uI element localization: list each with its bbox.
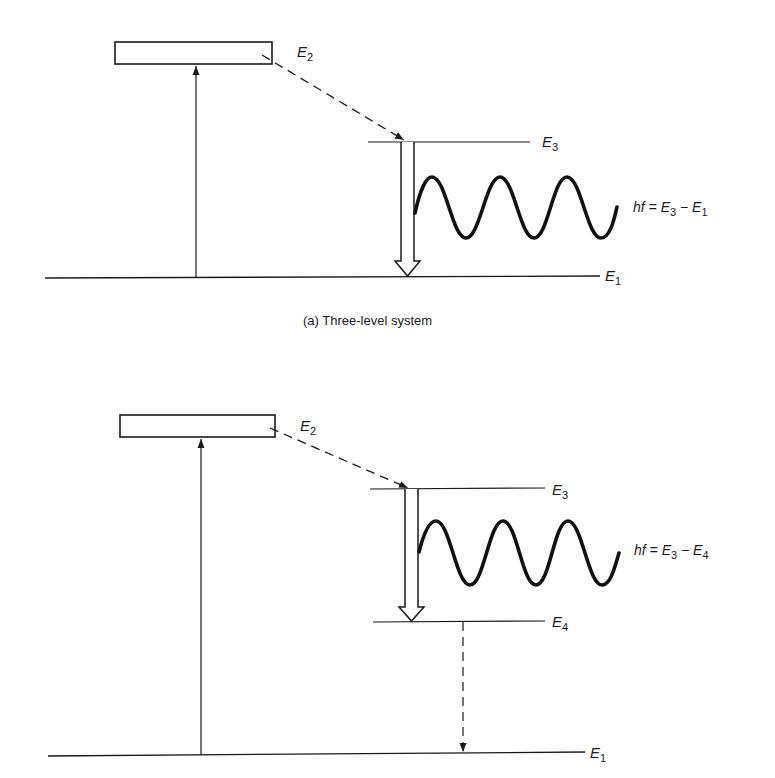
e1-label: E1 — [590, 744, 606, 764]
e2-label: E2 — [300, 417, 316, 437]
photon-energy-equation: hf = E3 − E1 — [633, 199, 708, 218]
e1-label: E1 — [605, 267, 621, 287]
energy-level-diagrams — [0, 0, 775, 778]
nonradiative-decay-arrow — [262, 55, 404, 140]
e4-level-line — [373, 621, 545, 622]
e4-label: E4 — [552, 613, 568, 633]
nonradiative-decay-arrow — [270, 428, 408, 488]
e2-band — [115, 42, 272, 64]
e3-level-line — [370, 488, 545, 489]
e3-label: E3 — [542, 133, 558, 153]
hollow-emission-arrow — [399, 489, 424, 621]
three-level-system — [45, 42, 617, 278]
e1-ground-level-line — [45, 276, 600, 278]
caption-a: (a) Three-level system — [303, 313, 432, 328]
e3-label: E3 — [552, 481, 568, 501]
photon-wave — [415, 177, 617, 238]
photon-wave — [419, 521, 619, 585]
e2-band — [120, 415, 275, 437]
e2-label: E2 — [297, 43, 313, 63]
four-level-system — [48, 415, 619, 756]
photon-energy-equation: hf = E3 − E4 — [634, 542, 709, 561]
e1-ground-level-line — [48, 752, 585, 756]
